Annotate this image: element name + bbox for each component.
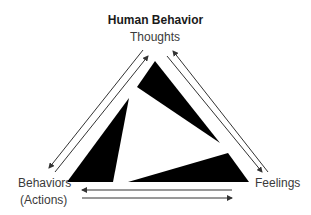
triangle-left (67, 98, 129, 182)
cycle-diagram (0, 0, 311, 215)
triangle-bottom (128, 153, 249, 182)
triangle-top (137, 61, 220, 143)
